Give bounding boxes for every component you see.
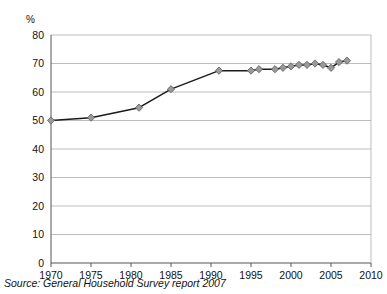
chart-figure: % 01020304050607080197019751980198519901…: [0, 0, 387, 294]
data-point-marker: [247, 67, 254, 74]
data-point-marker: [319, 61, 326, 68]
y-tick-label: 60: [32, 86, 44, 98]
x-tick-label: 2010: [359, 269, 383, 281]
x-tick-label: 2005: [319, 269, 343, 281]
source-note: Source: General Household Survey report …: [4, 277, 226, 289]
data-point-marker: [255, 66, 262, 73]
plot-area: 0102030405060708019701975198019851990199…: [0, 0, 387, 294]
data-point-marker: [215, 67, 222, 74]
y-tick-label: 20: [32, 200, 44, 212]
y-tick-label: 50: [32, 114, 44, 126]
y-tick-label: 70: [32, 57, 44, 69]
data-point-marker: [279, 64, 286, 71]
data-point-marker: [135, 104, 142, 111]
y-tick-label: 0: [38, 257, 44, 269]
data-point-marker: [303, 61, 310, 68]
data-point-marker: [295, 61, 302, 68]
y-tick-label: 40: [32, 143, 44, 155]
chart-svg: 0102030405060708019701975198019851990199…: [0, 0, 387, 294]
data-point-marker: [311, 60, 318, 67]
x-tick-label: 1995: [239, 269, 263, 281]
y-tick-label: 10: [32, 228, 44, 240]
data-point-marker: [271, 66, 278, 73]
y-tick-label: 80: [32, 29, 44, 41]
series-line: [51, 61, 347, 121]
data-point-marker: [47, 117, 54, 124]
y-tick-label: 30: [32, 171, 44, 183]
x-tick-label: 2000: [279, 269, 303, 281]
